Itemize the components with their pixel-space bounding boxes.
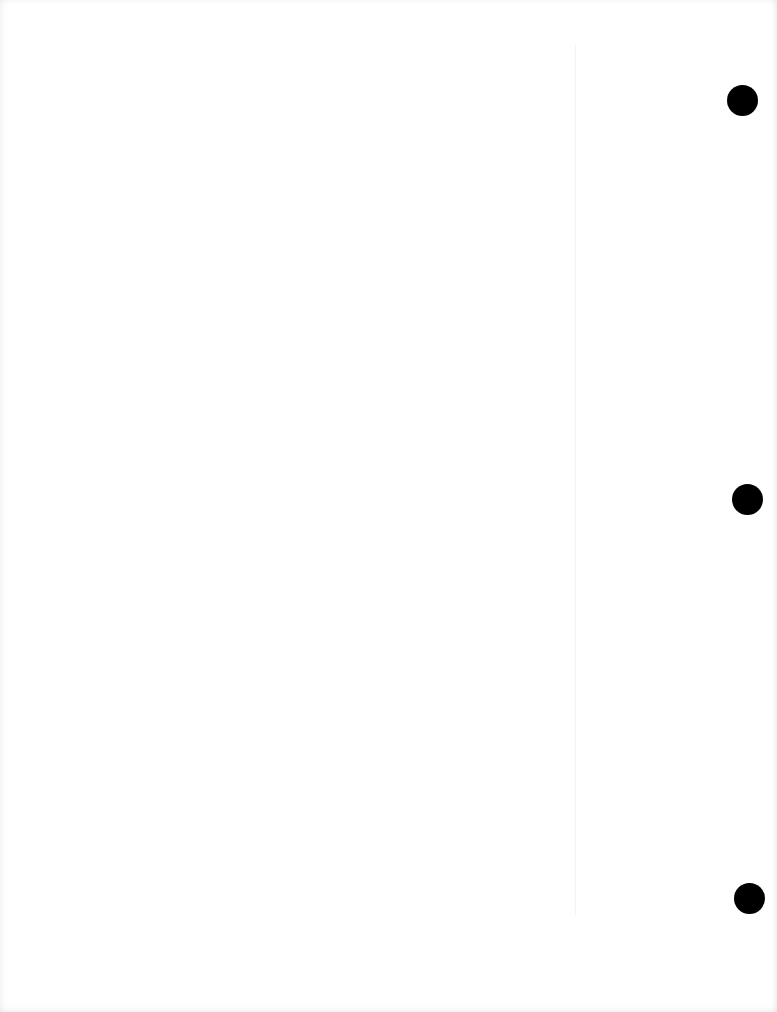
punch-hole-top [727, 85, 758, 116]
page-edge-shadow [771, 0, 777, 1012]
blank-page [0, 0, 777, 1012]
punch-hole-middle [732, 484, 763, 515]
punch-hole-bottom [734, 883, 765, 914]
fold-line [575, 45, 576, 915]
